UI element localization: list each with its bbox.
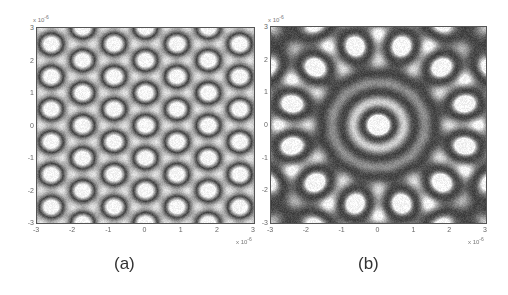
x-tick-label: -1 bbox=[336, 226, 348, 233]
heatmap-canvas-a bbox=[37, 28, 254, 223]
caption-b: (b) bbox=[358, 254, 379, 274]
y-tick-label: 3 bbox=[24, 24, 34, 31]
x-tick-label: -2 bbox=[300, 226, 312, 233]
y-tick-label: 3 bbox=[258, 23, 268, 30]
caption-a: (a) bbox=[114, 254, 135, 274]
x-tick-label: 1 bbox=[175, 226, 187, 233]
y-tick-label: 1 bbox=[258, 88, 268, 95]
x-tick-label: 0 bbox=[139, 226, 151, 233]
x-tick-label: 2 bbox=[443, 226, 455, 233]
y-axis-multiplier-a: x 10-6 bbox=[33, 14, 49, 24]
y-tick-label: -2 bbox=[24, 187, 34, 194]
x-tick-label: 3 bbox=[247, 226, 259, 233]
y-tick-label: -1 bbox=[258, 154, 268, 161]
heatmap-plot-a bbox=[36, 27, 255, 224]
y-tick-label: 1 bbox=[24, 89, 34, 96]
x-axis-multiplier-a: x 10-6 bbox=[236, 236, 252, 246]
x-axis-multiplier-b: x 10-6 bbox=[468, 236, 484, 246]
x-tick-label: -3 bbox=[264, 226, 276, 233]
x-tick-label: -3 bbox=[30, 226, 42, 233]
y-tick-label: 0 bbox=[24, 122, 34, 129]
y-tick-label: 2 bbox=[258, 56, 268, 63]
y-axis-multiplier-b: x 10-6 bbox=[268, 14, 284, 24]
y-tick-label: 0 bbox=[258, 121, 268, 128]
heatmap-plot-b bbox=[270, 26, 487, 224]
y-tick-label: -3 bbox=[258, 219, 268, 226]
y-tick-label: -3 bbox=[24, 219, 34, 226]
x-tick-label: -2 bbox=[66, 226, 78, 233]
x-tick-label: 2 bbox=[211, 226, 223, 233]
x-tick-label: -1 bbox=[102, 226, 114, 233]
x-tick-label: 3 bbox=[479, 226, 491, 233]
x-tick-label: 1 bbox=[407, 226, 419, 233]
y-tick-label: -1 bbox=[24, 154, 34, 161]
y-tick-label: -2 bbox=[258, 186, 268, 193]
x-tick-label: 0 bbox=[372, 226, 384, 233]
y-tick-label: 2 bbox=[24, 57, 34, 64]
heatmap-canvas-b bbox=[271, 27, 486, 223]
